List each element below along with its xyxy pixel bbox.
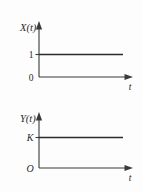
y-axis-arrow-icon-top [36, 21, 42, 30]
y-axis-label-bottom: Y(t) [20, 113, 36, 125]
x-axis-label-top: t [129, 82, 132, 92]
x-axis-arrow-icon-top [125, 74, 134, 80]
x-axis-label-bottom: t [129, 173, 132, 183]
y-tick-label-k: K [26, 132, 35, 143]
plot-x-of-t: X(t) 1 0 t [0, 0, 143, 96]
x-axis-arrow-icon-bottom [125, 165, 134, 171]
origin-label-top: 0 [29, 73, 34, 83]
origin-label-bottom: O [26, 163, 33, 174]
y-axis-label-top: X(t) [19, 22, 37, 34]
y-axis-arrow-icon-bottom [36, 112, 42, 121]
plot-y-of-t: Y(t) K O t [0, 96, 143, 192]
y-tick-label-1: 1 [29, 50, 34, 60]
signal-plots-figure: X(t) 1 0 t Y(t) K O t [0, 0, 143, 192]
